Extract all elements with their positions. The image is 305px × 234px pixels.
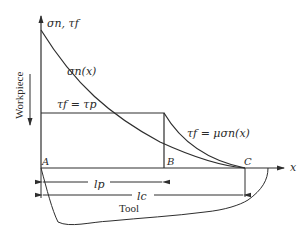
workpiece-label: Workpiece — [13, 72, 25, 119]
x-axis-label: x — [290, 161, 297, 174]
stress-axis-label: σn, τf — [47, 17, 81, 30]
point-c-label: C — [244, 156, 252, 167]
plateau-label: τf = τp — [57, 98, 97, 111]
point-b-label: B — [166, 156, 174, 167]
normal-stress-label: σn(x) — [67, 65, 96, 78]
tool-label: Tool — [119, 202, 139, 214]
friction-label: τf = μσn(x) — [187, 127, 250, 140]
point-a-label: A — [41, 156, 49, 167]
plateau-shear-line — [41, 113, 164, 168]
stress-diagram: σn, τf x σn(x) τf = τp τf = μσn(x) A B C… — [0, 0, 305, 234]
tool-outline — [41, 168, 268, 225]
lp-label: lp — [94, 178, 105, 191]
